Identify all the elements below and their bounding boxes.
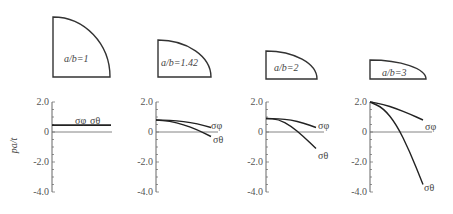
curve-3-sigma-theta	[266, 119, 316, 149]
tick-0: 0	[21, 127, 49, 137]
tick-neg2: -2.0	[235, 157, 263, 167]
curve-4-sigma-phi	[370, 102, 423, 120]
shell-profile-1	[53, 17, 110, 77]
tick-neg4: -4.0	[235, 187, 263, 197]
sigma-theta-label-1: σθ	[90, 116, 100, 126]
tick-2: 2.0	[21, 97, 49, 107]
curve-2-sigma-theta	[156, 120, 211, 137]
sigma-phi-label-2: σφ	[211, 121, 222, 131]
tick-neg2: -2.0	[21, 157, 49, 167]
plot-4-axes	[370, 102, 432, 192]
curve-4-sigma-theta	[370, 102, 423, 185]
tick-neg4: -4.0	[21, 187, 49, 197]
tick-0: 0	[235, 127, 263, 137]
sigma-theta-label-3: σθ	[318, 151, 328, 161]
sigma-phi-label-3: σφ	[318, 121, 329, 131]
plot-2-axes	[156, 102, 218, 192]
tick-2: 2.0	[339, 97, 367, 107]
sigma-theta-label-4: σθ	[424, 183, 434, 193]
tick-2: 2.0	[235, 97, 263, 107]
ratio-label-4: a/b=3	[382, 67, 407, 78]
sigma-phi-label-1: σφ	[75, 116, 86, 126]
ratio-label-3: a/b=2	[274, 62, 299, 73]
stress-curves	[52, 102, 423, 185]
sigma-phi-label-4: σφ	[425, 122, 436, 132]
figure-canvas	[0, 0, 453, 214]
ratio-label-1: a/b=1	[64, 53, 89, 64]
tick-neg2: -2.0	[125, 157, 153, 167]
tick-0: 0	[339, 127, 367, 137]
tick-neg4: -4.0	[339, 187, 367, 197]
ratio-label-2: a/b=1.42	[161, 57, 198, 68]
tick-2: 2.0	[125, 97, 153, 107]
sigma-theta-label-2: σθ	[213, 135, 223, 145]
y-axis-label: pa/t	[8, 138, 19, 154]
tick-neg2: -2.0	[339, 157, 367, 167]
tick-0: 0	[125, 127, 153, 137]
tick-neg4: -4.0	[125, 187, 153, 197]
